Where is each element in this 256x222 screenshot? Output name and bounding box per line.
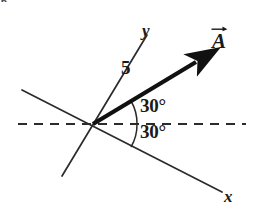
angle-arc-lower <box>131 124 137 147</box>
angle-arc-upper <box>131 101 137 124</box>
y-axis-line <box>62 35 147 176</box>
magnitude-label: 5 <box>121 58 131 77</box>
x-axis-label: x <box>224 188 233 205</box>
vector-diagram-figure: 6. y x 5 30° 30° A <box>0 0 256 222</box>
vector-a-letter: A <box>212 29 226 53</box>
angle-label-lower: 30° <box>140 122 166 141</box>
vector-a-label: A <box>212 31 256 52</box>
y-axis-label: y <box>142 22 150 39</box>
angle-label-upper: 30° <box>140 96 166 115</box>
